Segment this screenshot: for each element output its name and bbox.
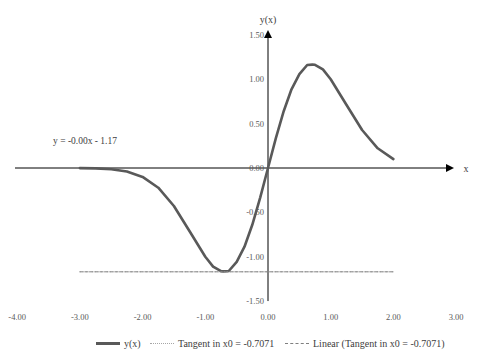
legend-label: Tangent in x0 = -0.7071 <box>178 338 274 349</box>
axes <box>15 32 452 301</box>
x-tick-label: -3.00 <box>71 312 89 322</box>
x-tick-label: 0.00 <box>261 312 276 322</box>
x-tick-label: -2.00 <box>134 312 152 322</box>
x-tick-label: 2.00 <box>386 312 401 322</box>
y-tick-label: 0.00 <box>249 163 264 173</box>
legend: y(x) Tangent in x0 = -0.7071 Linear (Tan… <box>0 338 482 358</box>
y-tick-label: 1.00 <box>249 74 264 84</box>
y-axis-title: y(x) <box>260 14 277 26</box>
y-tick-label: -0.50 <box>246 207 264 217</box>
y-tick-label: 0.50 <box>249 119 264 129</box>
y-tick-label: -1.00 <box>246 252 264 262</box>
x-tick-label: -1.00 <box>196 312 214 322</box>
chart-area: -4.00-3.00-2.00-1.000.001.002.003.001.50… <box>0 0 482 361</box>
x-axis-title: x <box>464 163 469 174</box>
y-tick-label: -1.50 <box>246 296 264 306</box>
x-tick-label: 3.00 <box>449 312 464 322</box>
y-tick-label: 1.50 <box>249 30 264 40</box>
legend-swatch-solid <box>96 342 120 345</box>
legend-item-tangent: Tangent in x0 = -0.7071 <box>150 338 274 349</box>
legend-swatch-dashed <box>285 343 309 344</box>
x-tick-label: 1.00 <box>323 312 338 322</box>
legend-item-linear: Linear (Tangent in x0 = -0.7071) <box>285 338 445 349</box>
legend-swatch-dotted <box>150 343 174 344</box>
legend-label: y(x) <box>124 338 141 349</box>
legend-label: Linear (Tangent in x0 = -0.7071) <box>313 338 445 349</box>
trendline-equation: y = -0.00x - 1.17 <box>53 136 117 146</box>
x-tick-label: -4.00 <box>8 312 26 322</box>
legend-item-yx: y(x) <box>96 338 141 349</box>
